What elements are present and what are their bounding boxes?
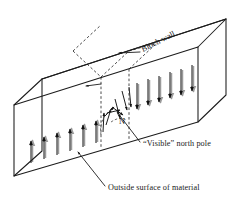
bloch-wall-figure: Bloch wall “Visible” north pole N Outsid… (0, 0, 243, 202)
figure-canvas: Bloch wall “Visible” north pole N Outsid… (0, 0, 243, 202)
outside-surface-annotation: Outside surface of material (78, 152, 200, 192)
outside-surface-label: Outside surface of material (108, 183, 200, 192)
visible-north-pole-label: “Visible” north pole (143, 139, 211, 148)
north-pole-marker-label: N (119, 116, 125, 126)
